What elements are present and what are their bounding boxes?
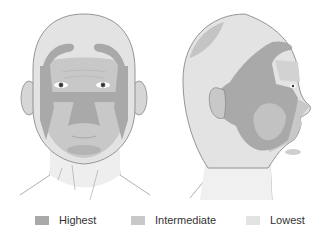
legend-item-highest: Highest <box>35 210 96 230</box>
front-head-illustration <box>20 14 150 200</box>
legend-item-lowest: Lowest <box>246 210 305 230</box>
legend-label-intermediate: Intermediate <box>155 214 216 226</box>
legend-item-intermediate: Intermediate <box>131 210 216 230</box>
legend-swatch-highest <box>35 216 49 225</box>
legend-label-highest: Highest <box>59 214 96 226</box>
legend-swatch-lowest <box>246 216 260 225</box>
side-head-illustration <box>183 14 310 200</box>
legend: Highest Intermediate Lowest <box>0 210 335 230</box>
face-zones-figure <box>0 0 335 205</box>
legend-swatch-intermediate <box>131 216 145 225</box>
legend-label-lowest: Lowest <box>270 214 305 226</box>
